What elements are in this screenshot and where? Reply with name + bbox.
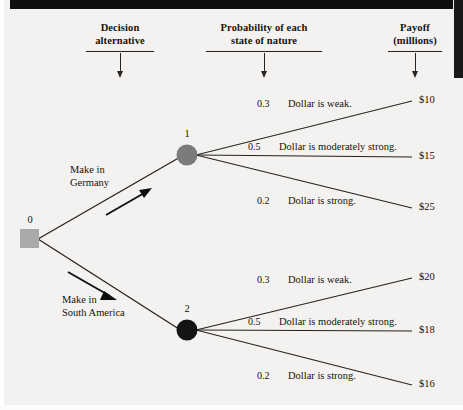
figure-canvas: Decision alternative Probability of each… xyxy=(0,0,463,410)
payoff-1-strong: $25 xyxy=(419,201,435,212)
outcome-branch-2-moderate xyxy=(196,330,412,331)
probability-1-strong: 0.2 xyxy=(257,195,279,206)
state-1-moderate: Dollar is moderately strong. xyxy=(279,141,397,152)
alternative-label-south-america: Make in South America xyxy=(62,293,125,319)
probability-1-moderate: 0.5 xyxy=(248,141,270,152)
probability-1-weak: 0.3 xyxy=(257,98,279,109)
alternative-germany-line2: Germany xyxy=(70,176,109,189)
decision-tree-graphic xyxy=(0,0,463,410)
probability-2-weak: 0.3 xyxy=(257,274,279,285)
probability-2-moderate: 0.5 xyxy=(248,316,270,327)
payoff-2-moderate: $18 xyxy=(419,324,435,335)
chance-node-1 xyxy=(177,145,198,166)
alternative-south-america-line2: South America xyxy=(62,306,125,319)
state-2-strong: Dollar is strong. xyxy=(288,370,356,381)
decision-node-0 xyxy=(20,229,39,248)
direction-arrow-germany xyxy=(106,188,152,215)
state-2-weak: Dollar is weak. xyxy=(288,274,352,285)
state-1-strong: Dollar is strong. xyxy=(288,195,356,206)
node-label-2: 2 xyxy=(177,303,197,314)
state-1-weak: Dollar is weak. xyxy=(288,98,352,109)
payoff-2-weak: $20 xyxy=(419,271,435,282)
state-2-moderate: Dollar is moderately strong. xyxy=(279,316,397,327)
alternative-label-germany: Make in Germany xyxy=(70,163,109,189)
node-label-1: 1 xyxy=(177,128,197,139)
outcome-branch-1-moderate xyxy=(196,155,412,157)
alternative-south-america-line1: Make in xyxy=(62,293,125,306)
alternative-germany-line1: Make in xyxy=(70,163,109,176)
payoff-2-strong: $16 xyxy=(419,378,435,389)
chance-node-2 xyxy=(177,320,198,341)
probability-2-strong: 0.2 xyxy=(257,370,279,381)
node-label-0: 0 xyxy=(20,214,40,225)
payoff-1-weak: $10 xyxy=(419,94,435,105)
payoff-1-moderate: $15 xyxy=(419,150,435,161)
branch-to-node-1 xyxy=(38,156,182,239)
